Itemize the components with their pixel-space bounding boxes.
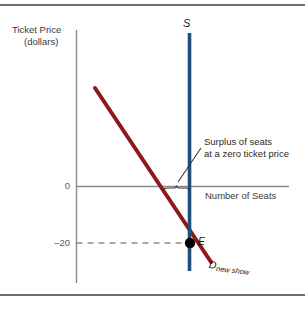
demand-curve: [95, 88, 211, 262]
y-axis-title-line2: (dollars): [12, 36, 61, 48]
supply-curve-label: S: [183, 17, 190, 29]
y-axis-title: Ticket Price (dollars): [12, 24, 61, 47]
equilibrium-point: [185, 238, 195, 248]
x-axis-title: Number of Seats: [205, 190, 276, 202]
surplus-annotation: Surplus of seats at a zero ticket price: [204, 136, 289, 159]
surplus-annotation-line1: Surplus of seats: [204, 136, 289, 148]
y-tick-label-minus-20: –20: [38, 237, 70, 248]
y-tick-label-zero: 0: [44, 180, 70, 191]
surplus-annotation-line2: at a zero ticket price: [204, 148, 289, 160]
economics-supply-demand-figure: Ticket Price (dollars) Number of Seats 0…: [0, 0, 305, 311]
y-axis-title-line1: Ticket Price: [12, 24, 61, 35]
equilibrium-point-label: E: [198, 235, 205, 247]
